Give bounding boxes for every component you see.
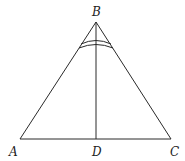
- label-b: B: [91, 5, 101, 19]
- segment-ab: [20, 22, 96, 139]
- label-c: C: [170, 145, 179, 159]
- triangle-diagram: B A D C: [0, 0, 185, 161]
- label-a: A: [8, 145, 18, 159]
- label-d: D: [91, 145, 102, 159]
- segment-bc: [96, 22, 171, 139]
